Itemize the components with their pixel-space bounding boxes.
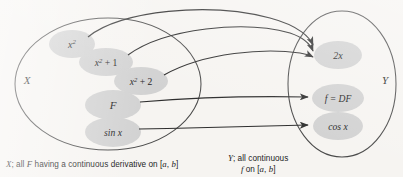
node-label: f = DF — [325, 93, 352, 104]
codomain-node-group: 2x f = DF cos x — [312, 41, 364, 140]
node-f-equals-df[interactable]: f = DF — [312, 84, 364, 112]
domain-node-group: x2 x2 + 1 x2 + 2 F sin — [49, 30, 168, 147]
node-capital-f[interactable]: F — [85, 90, 141, 120]
caption-x-text-a: ; all — [11, 160, 26, 169]
caption-y-line-1: Y; all continuous — [228, 153, 288, 164]
node-label: cos x — [328, 121, 348, 132]
node-sin-x[interactable]: sin x — [85, 117, 141, 147]
arrow-sin-x-to-cos-x — [139, 125, 308, 129]
caption-y-text-a: ; all continuous — [233, 154, 288, 163]
caption-x-text-d: ] — [176, 160, 178, 169]
arrow-f-to-f-equals-df — [140, 97, 308, 102]
node-x2-plus-2[interactable]: x2 + 2 — [114, 67, 168, 95]
caption-y-text-b: on [ — [243, 165, 259, 174]
node-2x[interactable]: 2x — [314, 41, 362, 69]
node-label: x2 + 2 — [129, 76, 153, 87]
set-label-x: X — [23, 74, 32, 86]
node-label: F — [109, 99, 117, 111]
node-label: sin x — [104, 127, 123, 138]
caption-y-line-2: f on [a, b] — [228, 164, 288, 175]
node-label: 2x — [333, 50, 343, 61]
arrow-x2-plus-1-to-2x — [128, 27, 313, 55]
node-cos-x[interactable]: cos x — [313, 112, 363, 140]
figure-canvas: x2 x2 + 1 x2 + 2 F sin — [0, 0, 403, 177]
diagram-svg: x2 x2 + 1 x2 + 2 F sin — [0, 0, 403, 177]
set-label-y: Y — [382, 74, 390, 86]
caption-y: Y; all continuous f on [a, b] — [228, 153, 288, 175]
node-label: x2 + 1 — [94, 57, 118, 68]
caption-x: X; all F having a continuous derivative … — [6, 159, 178, 170]
caption-x-text-b: having a continuous derivative on [ — [32, 160, 162, 169]
arrow-x2-to-2x — [88, 10, 313, 45]
caption-y-text-d: ] — [273, 165, 275, 174]
